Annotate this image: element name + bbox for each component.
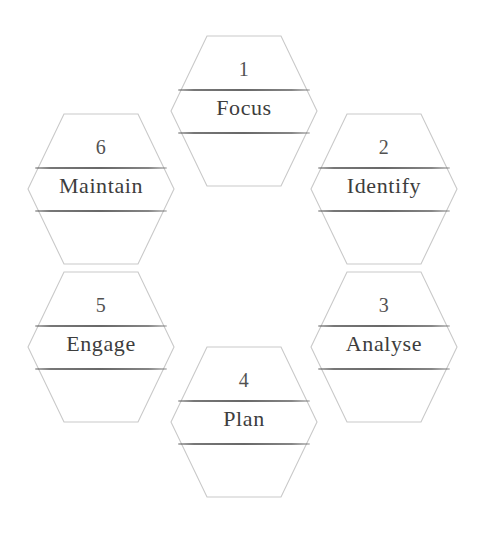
- hexagon-outline-icon: [27, 113, 175, 265]
- hexagon-outline-icon: [170, 346, 318, 498]
- hexagon-step-3[interactable]: 3 Analyse: [310, 271, 458, 423]
- hexagon-step-4[interactable]: 4 Plan: [170, 346, 318, 498]
- hexagon-step-1[interactable]: 1 Focus: [170, 35, 318, 187]
- hexagon-outline-icon: [310, 113, 458, 265]
- hexagon-outline-icon: [310, 271, 458, 423]
- hexagon-outline-icon: [170, 35, 318, 187]
- hexagon-step-2[interactable]: 2 Identify: [310, 113, 458, 265]
- hexagon-process-diagram: 1 Focus 2 Identify 3 Analyse: [0, 0, 484, 534]
- hexagon-outline-icon: [27, 271, 175, 423]
- hexagon-step-5[interactable]: 5 Engage: [27, 271, 175, 423]
- hexagon-step-6[interactable]: 6 Maintain: [27, 113, 175, 265]
